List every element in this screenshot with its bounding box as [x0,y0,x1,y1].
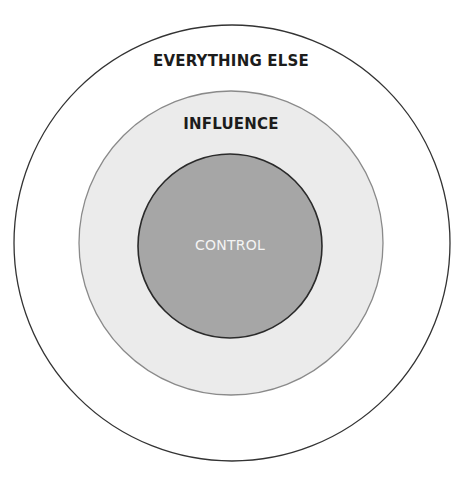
circles-diagram: EVERYTHING ELSE INFLUENCE CONTROL [0,0,458,479]
everything-else-label: EVERYTHING ELSE [153,52,309,70]
control-label: CONTROL [195,237,265,253]
influence-label: INFLUENCE [183,115,278,133]
